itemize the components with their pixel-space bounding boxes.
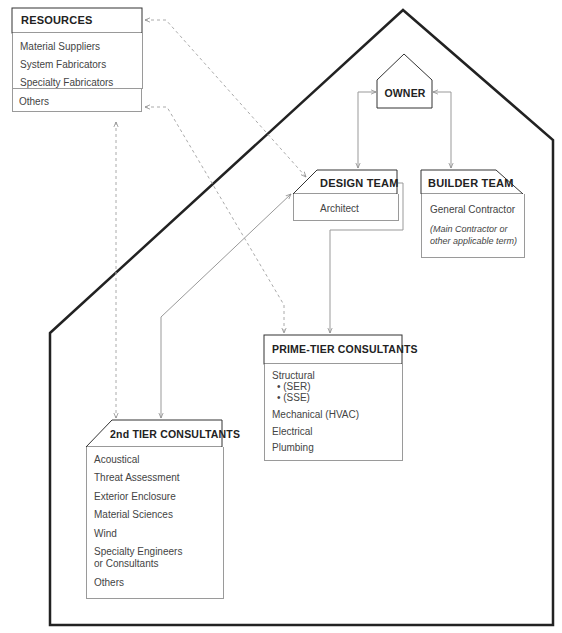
resources-title: RESOURCES xyxy=(21,14,92,26)
owner-node-shape xyxy=(377,54,432,108)
second-tier-item: Exterior Enclosure xyxy=(94,491,176,503)
design-team-body: Architect xyxy=(293,194,399,221)
connector-resources-design xyxy=(145,20,306,177)
second-tier-item: Others xyxy=(94,577,124,589)
prime-tier-item: Plumbing xyxy=(272,442,314,454)
builder-team-note: other applicable term) xyxy=(430,236,517,247)
connector-owner-builder xyxy=(433,92,451,168)
resources-body: Material Suppliers System Fabricators Sp… xyxy=(12,33,143,89)
second-tier-item: Acoustical xyxy=(94,454,140,466)
prime-tier-title: PRIME-TIER CONSULTANTS xyxy=(272,343,418,355)
builder-team-body: General Contractor (Main Contractor or o… xyxy=(421,194,525,258)
second-tier-item: Material Sciences xyxy=(94,509,173,521)
second-tier-body: Acoustical Threat Assessment Exterior En… xyxy=(86,447,224,599)
design-team-item: Architect xyxy=(320,203,359,215)
prime-tier-item: Mechanical (HVAC) xyxy=(272,409,359,421)
resources-item: Material Suppliers xyxy=(20,41,100,53)
builder-team-item: General Contractor xyxy=(430,204,515,216)
builder-team-note: (Main Contractor or xyxy=(430,224,508,235)
resources-item: System Fabricators xyxy=(20,59,106,71)
resources-body-border xyxy=(12,88,142,112)
second-tier-title: 2nd TIER CONSULTANTS xyxy=(110,428,240,440)
prime-tier-item: • (SSE) xyxy=(277,392,310,404)
second-tier-item: or Consultants xyxy=(94,558,158,570)
connector-owner-design xyxy=(358,92,376,168)
second-tier-item: Wind xyxy=(94,528,117,540)
prime-tier-item: Electrical xyxy=(272,426,313,438)
builder-team-title: BUILDER TEAM xyxy=(428,177,514,189)
second-tier-item: Specialty Engineers xyxy=(94,546,182,558)
prime-tier-body: Structural • (SER) • (SSE) Mechanical (H… xyxy=(264,364,403,461)
design-team-title: DESIGN TEAM xyxy=(320,177,399,189)
second-tier-item: Threat Assessment xyxy=(94,472,180,484)
owner-title: OWNER xyxy=(377,87,433,99)
